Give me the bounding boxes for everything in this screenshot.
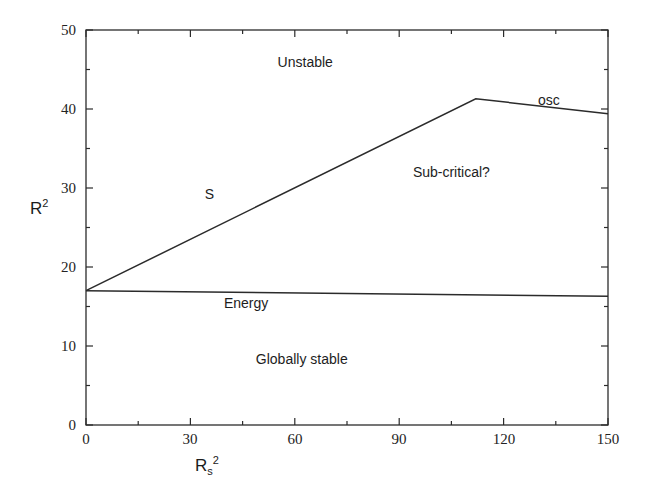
curve-label-osc: osc (538, 92, 560, 108)
x-tick-label: 0 (82, 431, 90, 448)
x-tick-label: 120 (493, 431, 516, 448)
data-series-group (86, 99, 608, 297)
series-line-energy (86, 291, 608, 297)
curve-label-s: S (205, 186, 214, 202)
region-label-globally-stable: Globally stable (256, 351, 348, 367)
region-label-sub-critical: Sub-critical? (413, 164, 490, 180)
x-axis-title-exponent: 2 (213, 454, 219, 466)
x-axis-title-subscript: s (207, 465, 213, 477)
y-tick-label: 20 (48, 259, 76, 276)
y-tick-label: 30 (48, 180, 76, 197)
y-tick-label: 40 (48, 101, 76, 118)
y-tick-label: 10 (48, 338, 76, 355)
y-tick-label: 0 (48, 417, 76, 434)
y-axis-title: R2 (30, 199, 48, 219)
x-tick-label: 60 (288, 431, 303, 448)
y-axis-title-exponent: 2 (42, 197, 48, 209)
y-axis-title-base: R (30, 199, 42, 218)
region-label-unstable: Unstable (278, 54, 333, 70)
x-axis-title-base: R (195, 456, 207, 475)
series-line-s (86, 99, 608, 291)
plot-canvas (0, 0, 657, 499)
x-tick-label: 150 (597, 431, 620, 448)
x-axis-title: Rs2 (195, 456, 219, 476)
stability-diagram-figure: 0 10 20 30 40 50 0 30 60 90 120 150 R2 R… (0, 0, 657, 499)
x-tick-label: 90 (392, 431, 407, 448)
curve-label-energy: Energy (224, 295, 268, 311)
y-tick-label: 50 (48, 22, 76, 39)
x-tick-label: 30 (183, 431, 198, 448)
